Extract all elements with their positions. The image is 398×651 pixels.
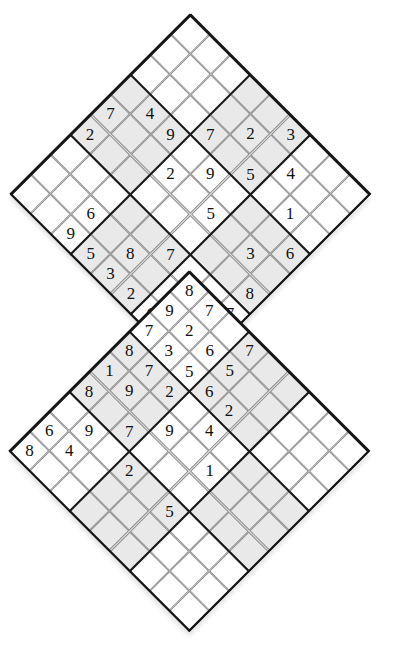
puzzle-canvas: 3247514996725328776839532642877926573562…: [0, 0, 398, 651]
bottom-grid[interactable]: 8779265735628724199187925648: [9, 271, 369, 631]
grid-outline: [9, 271, 369, 631]
